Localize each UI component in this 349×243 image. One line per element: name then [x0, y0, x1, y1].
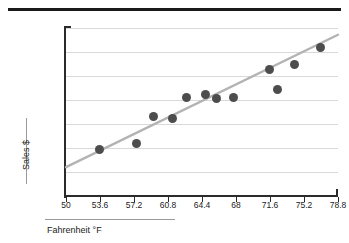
x-tick-label: 68	[231, 200, 240, 210]
gridline	[66, 52, 338, 53]
data-point	[316, 43, 325, 52]
y-axis-top-cap	[64, 26, 71, 28]
gridline	[66, 76, 338, 77]
data-point	[290, 60, 299, 69]
scatter-chart-figure: $ 700$ 600$ 500$ 400$ 300$ 200$ 100$ 0 5…	[0, 0, 349, 243]
x-axis-title: Fahrenheit °F	[47, 225, 102, 235]
x-axis-title-rule	[45, 219, 175, 220]
x-tick-label: 75.2	[296, 200, 313, 210]
y-axis-tick-labels: $ 700$ 600$ 500$ 400$ 300$ 200$ 100$ 0	[0, 0, 60, 243]
x-tick-label: 57.2	[126, 200, 143, 210]
data-point	[182, 93, 191, 102]
x-tick-label: 60.8	[160, 200, 177, 210]
data-point	[273, 85, 282, 94]
data-point	[212, 94, 221, 103]
gridline	[66, 172, 338, 173]
x-axis-line	[64, 195, 338, 197]
y-axis-title: Sales $	[21, 125, 31, 185]
gridline	[66, 148, 338, 149]
x-axis-right-cap	[336, 189, 338, 197]
data-point	[132, 139, 141, 148]
x-tick-label: 71.6	[262, 200, 279, 210]
data-point	[265, 65, 274, 74]
data-point	[168, 114, 177, 123]
data-point	[229, 93, 238, 102]
x-tick-label: 50	[61, 200, 70, 210]
x-tick-label: 53.6	[92, 200, 109, 210]
data-point	[201, 90, 210, 99]
gridline	[66, 100, 338, 101]
gridline	[66, 124, 338, 125]
data-point	[149, 112, 158, 121]
x-tick-label: 78.8	[330, 200, 347, 210]
y-axis-line	[64, 26, 66, 198]
data-point	[95, 145, 104, 154]
gridline	[66, 28, 338, 29]
x-tick-label: 64.4	[194, 200, 211, 210]
